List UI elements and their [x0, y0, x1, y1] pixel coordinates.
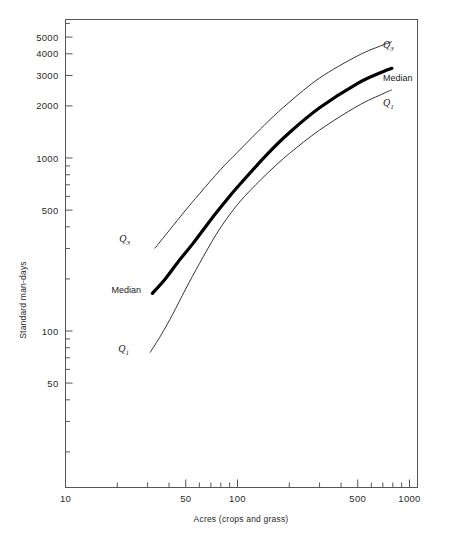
curve-q3	[155, 42, 392, 249]
x-axis-minor-ticks	[117, 483, 401, 488]
chart-canvas: 5010050010002000300040005000 10501005001…	[0, 0, 468, 557]
curve-labels: Q3MedianQ1Q3MedianQ1	[111, 39, 412, 357]
y-tick-label: 100	[42, 326, 59, 337]
data-curves	[150, 42, 392, 353]
y-tick-label: 1000	[36, 153, 58, 164]
figure-container: 5010050010002000300040005000 10501005001…	[0, 0, 468, 557]
y-tick-label: 3000	[36, 70, 58, 81]
y-tick-label: 500	[42, 205, 59, 216]
plot-frame	[66, 20, 418, 488]
x-tick-label: 500	[349, 493, 366, 504]
y-axis-minor-ticks	[66, 23, 71, 452]
curve-label-median-left: Median	[111, 285, 141, 295]
y-axis-tick-labels: 5010050010002000300040005000	[36, 32, 58, 389]
x-axis-tick-labels: 10501005001000	[60, 493, 421, 504]
curve-label-q1-right: Q1	[383, 97, 394, 111]
curve-q1	[150, 90, 392, 353]
y-tick-label: 50	[47, 378, 58, 389]
y-tick-label: 5000	[36, 32, 58, 43]
curve-label-q3-right: Q3	[383, 39, 394, 53]
x-tick-label: 100	[229, 493, 246, 504]
curve-label-q1-left: Q1	[118, 343, 129, 357]
x-tick-label: 50	[180, 493, 191, 504]
x-tick-label: 10	[60, 493, 71, 504]
y-axis-major-ticks	[66, 37, 73, 383]
x-axis-title: Acres (crops and grass)	[194, 514, 289, 524]
y-tick-label: 4000	[36, 48, 58, 59]
curve-median	[152, 68, 392, 293]
y-tick-label: 2000	[36, 100, 58, 111]
y-axis-title: Standard man-days	[18, 261, 28, 339]
x-tick-label: 1000	[398, 493, 420, 504]
curve-label-q3-left: Q3	[119, 233, 130, 247]
curve-label-median-right: Median	[383, 73, 413, 83]
